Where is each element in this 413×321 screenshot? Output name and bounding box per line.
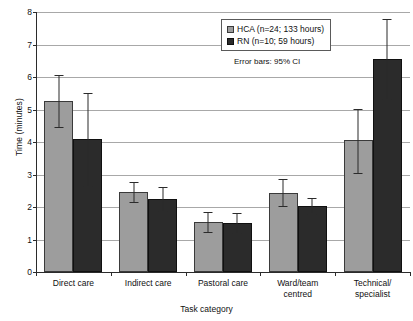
bar-slot (373, 12, 402, 272)
bar-pair (186, 12, 261, 272)
bar-slot (194, 12, 223, 272)
x-tick-label: Ward/teamcentred (260, 278, 335, 300)
error-cap-lower (354, 173, 363, 174)
x-tick-mark (335, 272, 336, 276)
bar-slot (119, 12, 148, 272)
error-cap-upper (158, 187, 167, 188)
bar-slot (73, 12, 102, 272)
x-tick-mark (410, 272, 411, 276)
x-tick-label-line: Pastoral care (186, 278, 261, 289)
error-bar-note: Error bars: 95% CI (234, 57, 300, 66)
x-axis-line (36, 272, 410, 273)
x-tick-label: Indirect care (111, 278, 186, 289)
error-cap-upper (279, 179, 288, 180)
x-tick-label-line: Direct care (36, 278, 111, 289)
bar-groups: Direct careIndirect carePastoral careWar… (36, 12, 410, 272)
bar-slot (223, 12, 252, 272)
error-cap-upper (83, 93, 92, 94)
legend-label-hca: HCA (n=24; 133 hours) (237, 23, 324, 35)
error-cap-lower (129, 202, 138, 203)
y-tick-label: 6 (27, 72, 32, 82)
bar-group: Technical/specialist (335, 12, 410, 272)
bar-chart: Time (minutes) 012345678 Direct careIndi… (0, 0, 413, 321)
y-tick-label: 3 (27, 170, 32, 180)
y-tick-label: 0 (27, 267, 32, 277)
bar-group: Ward/teamcentred (260, 12, 335, 272)
y-tick-label: 1 (27, 235, 32, 245)
error-bar (387, 19, 388, 99)
bar-pair (36, 12, 111, 272)
x-tick-label: Direct care (36, 278, 111, 289)
plot-area: 012345678 Direct careIndirect carePastor… (36, 12, 410, 272)
error-cap-lower (279, 206, 288, 207)
y-tick-label: 7 (27, 40, 32, 50)
error-bar (208, 212, 209, 232)
y-axis-title: Time (minutes) (14, 72, 24, 182)
error-bar (237, 213, 238, 233)
error-cap-lower (308, 214, 317, 215)
error-bar (162, 187, 163, 211)
legend-label-rn: RN (n=10; 59 hours) (237, 35, 314, 47)
y-tick-label: 8 (27, 7, 32, 17)
error-cap-upper (383, 19, 392, 20)
legend-item-rn: RN (n=10; 59 hours) (227, 35, 324, 47)
error-bar (133, 182, 134, 202)
legend-item-hca: HCA (n=24; 133 hours) (227, 23, 324, 35)
error-bar (87, 93, 88, 186)
bar-group: Indirect care (111, 12, 186, 272)
bar-rn[interactable] (298, 206, 327, 272)
error-cap-upper (129, 182, 138, 183)
x-tick-mark (186, 272, 187, 276)
error-cap-upper (204, 212, 213, 213)
error-cap-upper (54, 75, 63, 76)
legend: HCA (n=24; 133 hours) RN (n=10; 59 hours… (221, 19, 331, 51)
error-cap-lower (158, 211, 167, 212)
bar-slot (344, 12, 373, 272)
bar-group: Direct care (36, 12, 111, 272)
x-tick-label: Technical/specialist (335, 278, 410, 300)
error-bar (283, 179, 284, 206)
error-cap-lower (204, 232, 213, 233)
x-tick-label-line: Indirect care (111, 278, 186, 289)
error-cap-lower (54, 127, 63, 128)
x-tick-mark (111, 272, 112, 276)
x-tick-label-line: centred (260, 289, 335, 300)
x-tick-mark (36, 272, 37, 276)
error-cap-upper (233, 213, 242, 214)
x-axis-title: Task category (0, 304, 413, 314)
x-tick-label: Pastoral care (186, 278, 261, 289)
bar-slot (298, 12, 327, 272)
error-bar (58, 75, 59, 127)
bar-slot (148, 12, 177, 272)
y-tick-label: 5 (27, 105, 32, 115)
bar-pair (111, 12, 186, 272)
bar-pair (260, 12, 335, 272)
x-tick-label-line: Ward/team (260, 278, 335, 289)
legend-swatch-rn (227, 38, 234, 45)
y-tick-label: 2 (27, 202, 32, 212)
bar-pair (335, 12, 410, 272)
legend-swatch-hca (227, 26, 234, 33)
bar-group: Pastoral care (186, 12, 261, 272)
error-cap-upper (308, 198, 317, 199)
error-cap-lower (383, 99, 392, 100)
bar-slot (269, 12, 298, 272)
bar-slot (44, 12, 73, 272)
x-tick-label-line: Technical/ (335, 278, 410, 289)
y-tick-label: 4 (27, 137, 32, 147)
bar-hca[interactable] (119, 192, 148, 272)
x-tick-mark (260, 272, 261, 276)
error-cap-upper (354, 109, 363, 110)
error-bar (358, 109, 359, 173)
error-cap-lower (83, 186, 92, 187)
x-tick-label-line: specialist (335, 289, 410, 300)
error-cap-lower (233, 233, 242, 234)
error-bar (312, 198, 313, 214)
